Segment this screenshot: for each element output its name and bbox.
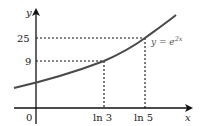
origin-label: 0	[26, 112, 32, 123]
x-axis-label: x	[185, 112, 191, 123]
y-tick-9: 9	[25, 56, 31, 67]
y-tick-25: 25	[17, 33, 30, 44]
chart-canvas: y 25 9 0 ln 3 ln 5 x y = e2x	[0, 0, 202, 126]
curve-equation-exponent: 2x	[174, 35, 183, 43]
x-tick-ln3: ln 3	[93, 112, 112, 123]
y-axis-label: y	[25, 7, 32, 18]
exponential-curve	[14, 15, 176, 88]
curve-equation-label: y = e2x	[150, 35, 183, 47]
curve-equation-base: y = e	[150, 37, 175, 47]
x-tick-ln5: ln 5	[134, 112, 153, 123]
